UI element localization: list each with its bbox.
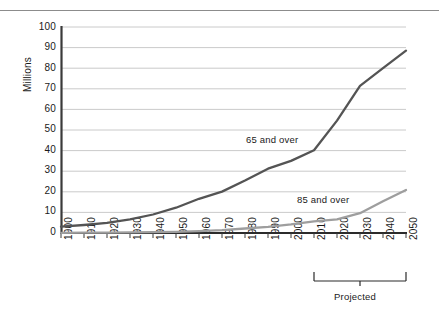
gridlines: [61, 27, 406, 212]
projected-bracket: [314, 272, 406, 286]
chart-figure: Millions 100 90 80 70 60 50 40 30 20 10 …: [0, 0, 439, 315]
series-line-85-and-over: [61, 190, 406, 233]
chart-plot-svg: [0, 0, 439, 315]
series-line-65-and-over: [61, 51, 406, 227]
axis-lines: [60, 26, 407, 233]
